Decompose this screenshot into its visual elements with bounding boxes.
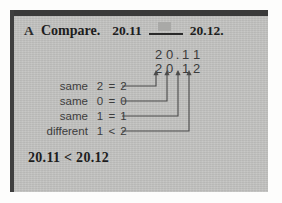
header-right-number: 20.12. bbox=[190, 23, 224, 39]
exercise-prompt: Compare. bbox=[41, 23, 100, 39]
comparison-row: same 0 = 0 bbox=[28, 95, 138, 110]
blank-underline bbox=[149, 33, 183, 35]
digit: 1 bbox=[180, 48, 191, 62]
comparison-label: same bbox=[28, 110, 97, 122]
exercise-panel: A Compare. 20.11 20.12. 2 0 . 1 1 2 0 . … bbox=[10, 10, 268, 192]
digit: 2 bbox=[191, 62, 202, 76]
comparison-rows: same 2 = 2 same 0 = 0 same 1 = 1 differe… bbox=[28, 80, 138, 140]
comparison-row: same 2 = 2 bbox=[28, 80, 138, 95]
blank-box bbox=[158, 22, 171, 31]
digit: 1 bbox=[191, 48, 202, 62]
comparison-label: same bbox=[28, 80, 97, 92]
comparison-expression: 1 < 2 bbox=[97, 125, 138, 137]
digit: 0 bbox=[164, 48, 175, 62]
digit: 2 bbox=[153, 62, 164, 76]
comparison-expression: 2 = 2 bbox=[97, 80, 138, 92]
stacked-number-bottom: 2 0 . 1 2 bbox=[153, 62, 202, 76]
stacked-number-top: 2 0 . 1 1 bbox=[153, 48, 202, 62]
comparison-expression: 1 = 1 bbox=[97, 110, 138, 122]
stacked-numbers: 2 0 . 1 1 2 0 . 1 2 bbox=[153, 48, 202, 75]
comparison-expression: 0 = 0 bbox=[97, 95, 138, 107]
exercise-letter: A bbox=[24, 23, 34, 39]
comparison-label: same bbox=[28, 95, 97, 107]
panel-left-bar bbox=[10, 10, 14, 192]
digit: 0 bbox=[164, 62, 175, 76]
header-left-number: 20.11 bbox=[112, 23, 142, 39]
comparison-row: different 1 < 2 bbox=[28, 125, 138, 140]
digit: 1 bbox=[180, 62, 191, 76]
answer-blank[interactable] bbox=[149, 22, 183, 35]
exercise-header: A Compare. 20.11 20.12. bbox=[24, 22, 224, 39]
comparison-row: same 1 = 1 bbox=[28, 110, 138, 125]
panel-top-bar bbox=[10, 10, 268, 16]
answer-statement: 20.11 < 20.12 bbox=[28, 150, 109, 166]
digit: 2 bbox=[153, 48, 164, 62]
comparison-label: different bbox=[28, 125, 97, 137]
